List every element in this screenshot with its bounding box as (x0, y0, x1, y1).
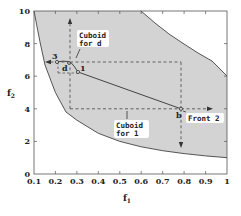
svg-text:0.5: 0.5 (113, 176, 127, 186)
y-tick-labels: 0 2 4 6 8 10 (19, 6, 31, 179)
svg-text:10: 10 (19, 6, 31, 16)
point-d-label: d (62, 63, 68, 73)
x-axis-label: f1 (123, 193, 131, 204)
svg-text:for d: for d (79, 39, 102, 48)
svg-text:2: 2 (24, 136, 30, 146)
svg-text:1: 1 (224, 176, 230, 186)
svg-text:0.2: 0.2 (48, 176, 62, 186)
svg-text:0.7: 0.7 (156, 176, 170, 186)
svg-text:4: 4 (24, 104, 30, 114)
svg-text:Front 2: Front 2 (188, 114, 220, 123)
svg-text:for 1: for 1 (116, 129, 139, 138)
y-axis-label: f2 (7, 88, 15, 99)
chart: 0.1 0.2 0.3 0.4 0.5 0.6 0.7 0.8 0.9 1 0 … (0, 0, 241, 216)
svg-text:0.6: 0.6 (134, 176, 148, 186)
svg-text:0: 0 (24, 169, 30, 179)
svg-text:0.9: 0.9 (199, 176, 213, 186)
svg-text:8: 8 (24, 39, 30, 49)
svg-text:0.8: 0.8 (177, 176, 191, 186)
x-tick-labels: 0.1 0.2 0.3 0.4 0.5 0.6 0.7 0.8 0.9 1 (27, 176, 230, 186)
point-d (68, 62, 71, 65)
point-1-label: 1 (80, 63, 86, 73)
point-b-label: b (176, 110, 182, 120)
svg-text:6: 6 (24, 71, 30, 81)
svg-text:0.4: 0.4 (91, 176, 105, 186)
point-3-label: 3 (52, 51, 58, 61)
svg-text:0.3: 0.3 (70, 176, 84, 186)
